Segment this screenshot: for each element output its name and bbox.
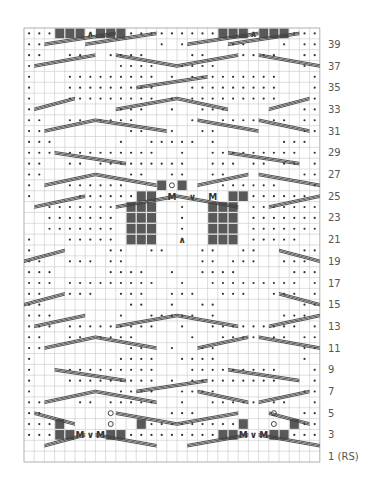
row-label: 21	[328, 234, 341, 245]
purl-dot-icon	[69, 238, 71, 240]
purl-dot-icon	[314, 271, 316, 273]
purl-dot-icon	[79, 217, 81, 219]
purl-dot-icon	[283, 238, 285, 240]
purl-dot-icon	[120, 152, 122, 154]
no-stitch-square	[55, 29, 64, 39]
purl-dot-icon	[212, 423, 214, 425]
purl-dot-icon	[28, 314, 30, 316]
purl-dot-icon	[38, 32, 40, 34]
purl-dot-icon	[120, 97, 122, 99]
purl-dot-icon	[242, 293, 244, 295]
purl-dot-icon	[293, 260, 295, 262]
purl-dot-icon	[140, 163, 142, 165]
cable-line	[44, 122, 95, 133]
purl-dot-icon	[181, 206, 183, 208]
purl-dot-icon	[120, 184, 122, 186]
no-stitch-square	[147, 202, 156, 212]
purl-dot-icon	[99, 195, 101, 197]
purl-dot-icon	[140, 271, 142, 273]
purl-dot-icon	[110, 195, 112, 197]
purl-dot-icon	[252, 195, 254, 197]
purl-dot-icon	[222, 271, 224, 273]
purl-dot-icon	[191, 32, 193, 34]
purl-dot-icon	[140, 358, 142, 360]
purl-dot-icon	[120, 65, 122, 67]
purl-dot-icon	[28, 434, 30, 436]
purl-dot-icon	[38, 282, 40, 284]
purl-dot-icon	[99, 282, 101, 284]
purl-dot-icon	[28, 76, 30, 78]
purl-dot-icon	[263, 184, 265, 186]
purl-dot-icon	[130, 401, 132, 403]
purl-dot-icon	[222, 423, 224, 425]
purl-dot-icon	[222, 119, 224, 121]
purl-dot-icon	[212, 141, 214, 143]
row-label: 17	[328, 278, 341, 289]
no-stitch-square	[218, 213, 227, 223]
purl-dot-icon	[242, 325, 244, 327]
purl-dot-icon	[222, 325, 224, 327]
purl-dot-icon	[283, 195, 285, 197]
purl-dot-icon	[48, 217, 50, 219]
purl-dot-icon	[161, 423, 163, 425]
purl-dot-icon	[150, 325, 152, 327]
purl-dot-icon	[99, 152, 101, 154]
purl-dot-icon	[191, 97, 193, 99]
purl-dot-icon	[232, 423, 234, 425]
purl-dot-icon	[140, 130, 142, 132]
purl-dot-icon	[28, 130, 30, 132]
purl-dot-icon	[120, 314, 122, 316]
purl-dot-icon	[232, 282, 234, 284]
purl-dot-icon	[252, 369, 254, 371]
purl-dot-icon	[171, 76, 173, 78]
purl-dot-icon	[69, 260, 71, 262]
purl-dot-icon	[212, 282, 214, 284]
row-label: 33	[328, 104, 341, 115]
purl-dot-icon	[314, 163, 316, 165]
purl-dot-icon	[303, 195, 305, 197]
purl-dot-icon	[140, 54, 142, 56]
purl-dot-icon	[110, 184, 112, 186]
purl-dot-icon	[130, 271, 132, 273]
purl-dot-icon	[28, 54, 30, 56]
purl-dot-icon	[252, 238, 254, 240]
purl-dot-icon	[28, 173, 30, 175]
purl-dot-icon	[130, 358, 132, 360]
purl-dot-icon	[130, 195, 132, 197]
purl-dot-icon	[150, 76, 152, 78]
purl-dot-icon	[161, 141, 163, 143]
purl-dot-icon	[171, 304, 173, 306]
purl-dot-icon	[303, 173, 305, 175]
purl-dot-icon	[212, 314, 214, 316]
purl-dot-icon	[130, 347, 132, 349]
purl-dot-icon	[222, 163, 224, 165]
purl-dot-icon	[212, 76, 214, 78]
purl-dot-icon	[222, 97, 224, 99]
purl-dot-icon	[201, 87, 203, 89]
purl-dot-icon	[232, 97, 234, 99]
purl-dot-icon	[120, 195, 122, 197]
purl-dot-icon	[48, 141, 50, 143]
purl-dot-icon	[191, 423, 193, 425]
purl-dot-icon	[263, 238, 265, 240]
purl-dot-icon	[293, 282, 295, 284]
purl-dot-icon	[130, 173, 132, 175]
purl-dot-icon	[99, 217, 101, 219]
purl-dot-icon	[130, 369, 132, 371]
purl-dot-icon	[89, 184, 91, 186]
purl-dot-icon	[293, 217, 295, 219]
purl-dot-icon	[171, 380, 173, 382]
purl-dot-icon	[89, 87, 91, 89]
purl-dot-icon	[89, 206, 91, 208]
purl-dot-icon	[212, 108, 214, 110]
no-stitch-square	[147, 213, 156, 223]
purl-dot-icon	[232, 184, 234, 186]
purl-dot-icon	[222, 282, 224, 284]
decrease-icon: ∧	[178, 235, 185, 245]
purl-dot-icon	[171, 32, 173, 34]
purl-dot-icon	[150, 97, 152, 99]
purl-dot-icon	[79, 228, 81, 230]
purl-dot-icon	[314, 380, 316, 382]
purl-dot-icon	[79, 87, 81, 89]
purl-dot-icon	[252, 152, 254, 154]
